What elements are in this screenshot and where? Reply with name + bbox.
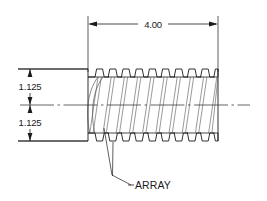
annotation-label-array: ARRAY (135, 179, 171, 191)
cad-drawing-canvas: 4.00 1.125 1.125 ARRA (0, 0, 267, 201)
dimension-value-lower-radius: 1.125 (19, 117, 42, 128)
dimension-overall-length: 4.00 (88, 16, 218, 72)
thread-crest-profile-bottom (88, 133, 218, 141)
arrowhead-lower-top-icon (28, 105, 33, 113)
drawing-svg: 4.00 1.125 1.125 ARRA (0, 0, 267, 201)
arrowhead-right-icon (209, 21, 218, 26)
dimension-value-overall-length: 4.00 (144, 19, 162, 30)
thread-crest-profile-top (88, 69, 218, 77)
dimension-lower-radius: 1.125 (18, 105, 88, 141)
arrowhead-lower-bottom-icon (28, 133, 33, 141)
dimension-upper-radius: 1.125 (18, 69, 88, 105)
annotation-array: ARRAY (104, 128, 171, 191)
dimension-value-upper-radius: 1.125 (19, 81, 42, 92)
arrowhead-upper-bottom-icon (28, 97, 33, 105)
leader-line-b (113, 142, 114, 176)
leader-line-a (104, 128, 131, 185)
arrowhead-left-icon (88, 21, 97, 26)
arrowhead-upper-top-icon (28, 69, 33, 77)
